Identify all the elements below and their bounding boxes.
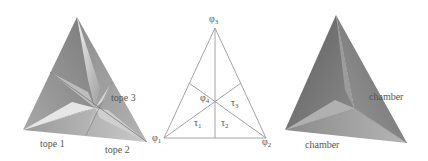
tau2-label: τ2 <box>221 117 229 130</box>
phi3-label: φ3 <box>209 13 219 26</box>
chamber-label-upper: chamber <box>369 91 404 102</box>
tau3-label: τ3 <box>231 97 239 110</box>
phi1-label: φ1 <box>152 132 162 145</box>
left-tetrahedron: tope 1 tope 2 tope 3 <box>23 17 147 155</box>
right-tetrahedron: chamber chamber <box>285 15 407 150</box>
tau1-label: τ1 <box>194 117 202 130</box>
figure-canvas: tope 1 tope 2 tope 3 φ3 φ4 τ3 τ1 τ2 φ1 φ… <box>0 0 428 161</box>
middle-labels: φ3 φ4 τ3 τ1 τ2 φ1 φ2 <box>152 13 272 149</box>
tope-3-label: tope 3 <box>111 92 136 103</box>
middle-triangle-diagram <box>164 28 266 138</box>
tope-1-label: tope 1 <box>40 138 65 149</box>
phi2-label: φ2 <box>262 136 272 149</box>
chamber-label-lower: chamber <box>305 139 340 150</box>
phi4-label: φ4 <box>200 92 210 105</box>
tope-2-label: tope 2 <box>105 144 130 155</box>
